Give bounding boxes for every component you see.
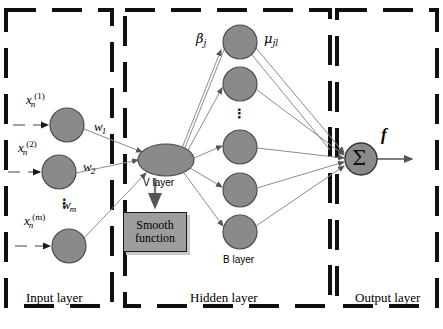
weight-label-w1: w1 xyxy=(94,120,106,136)
node-v-layer xyxy=(138,144,194,176)
edges-v-to-b xyxy=(182,50,223,226)
node-hidden-4 xyxy=(223,173,257,207)
node-hidden-1 xyxy=(223,25,257,59)
node-hidden-5 xyxy=(223,215,257,249)
v-layer-caption: V layer xyxy=(143,178,174,188)
input-ellipsis: ⋮ xyxy=(58,200,71,207)
output-function-label: f xyxy=(381,126,387,143)
input-nodes xyxy=(42,108,86,263)
hidden-ellipsis: ⋮ xyxy=(233,110,246,117)
caption-input-layer: Input layer xyxy=(22,291,87,304)
edge-label-mu: μjl xyxy=(264,32,278,48)
node-hidden-3 xyxy=(223,130,257,164)
input-label-x1: xn(1) xyxy=(26,92,45,109)
weight-label-w2: w2 xyxy=(83,160,95,176)
smooth-function-block: Smooth function xyxy=(123,212,187,252)
diagram-canvas xyxy=(0,0,443,329)
input-label-x2: xn(2) xyxy=(18,140,37,157)
node-input-m xyxy=(52,229,86,263)
input-label-xm: xn(m) xyxy=(24,213,45,230)
hidden-nodes xyxy=(223,25,257,249)
caption-output-layer: Output layer xyxy=(351,291,424,304)
node-input-2 xyxy=(42,155,76,189)
sigma-symbol: Σ xyxy=(352,148,366,168)
b-layer-caption: B layer xyxy=(223,255,254,265)
caption-hidden-layer: Hidden layer xyxy=(186,291,262,304)
neural-network-diagram: Σ f xn(1) xn(2) xn(m) w1 w2 wm ⋮ βj μjl … xyxy=(0,0,443,329)
node-input-1 xyxy=(50,108,84,142)
edge-label-beta: βj xyxy=(196,32,206,48)
node-hidden-2 xyxy=(223,67,257,101)
smooth-function-line2: function xyxy=(135,232,175,245)
